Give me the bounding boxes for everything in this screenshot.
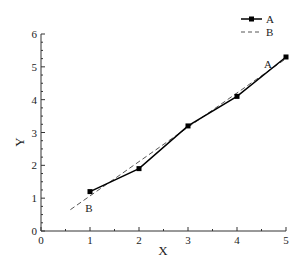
- x-tick-label: 2: [136, 234, 142, 246]
- y-tick-label: 2: [32, 159, 38, 171]
- legend-b-label: B: [266, 26, 273, 38]
- x-tick-label: 0: [38, 234, 44, 246]
- x-axis-label: X: [158, 243, 168, 258]
- y-tick-label: 5: [32, 61, 38, 73]
- series-a-marker: [284, 54, 289, 59]
- y-tick-label: 4: [32, 94, 38, 106]
- series-a-marker: [186, 123, 191, 128]
- y-axis-label: Y: [12, 137, 27, 147]
- y-tick-label: 6: [32, 28, 38, 40]
- legend-a-label: A: [266, 13, 274, 25]
- series-a-marker: [235, 94, 240, 99]
- y-tick-label: 0: [32, 225, 38, 237]
- annotation-label: B: [85, 202, 92, 214]
- line-chart: 0123450123456 AB AB X Y: [0, 0, 304, 266]
- series-a-marker: [137, 166, 142, 171]
- axes: 0123450123456: [32, 28, 290, 246]
- series-a-marker: [88, 189, 93, 194]
- x-tick-label: 3: [185, 234, 191, 246]
- annotation-label: A: [264, 58, 272, 70]
- x-tick-label: 4: [234, 234, 240, 246]
- x-tick-label: 1: [87, 234, 93, 246]
- legend: AB: [241, 13, 274, 38]
- legend-a-marker: [249, 17, 254, 22]
- y-tick-label: 1: [32, 192, 38, 204]
- plot-series: AB: [70, 54, 288, 214]
- y-tick-label: 3: [32, 127, 38, 139]
- x-tick-label: 5: [283, 234, 289, 246]
